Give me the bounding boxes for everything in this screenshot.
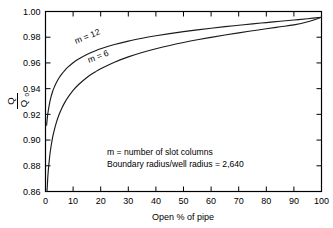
annotation-line-2: Boundary radius/well radius = 2,640 <box>107 159 244 169</box>
annotation-line-1: m = number of slot columns <box>107 147 213 157</box>
x-tick-label: 30 <box>123 196 133 206</box>
y-axis-title-denominator-subscript: o <box>23 93 30 97</box>
y-tick-label: 0.94 <box>23 84 41 94</box>
y-tick-label: 0.98 <box>23 32 41 42</box>
x-tick-label: 70 <box>234 196 244 206</box>
chart-figure: 0.860.880.900.920.940.960.981.00 0102030… <box>0 0 333 228</box>
x-tick-label: 20 <box>96 196 106 206</box>
x-tick-label: 50 <box>178 196 188 206</box>
x-tick-label: 90 <box>289 196 299 206</box>
x-axis-title: Open % of pipe <box>152 212 214 222</box>
x-tick-label: 10 <box>68 196 78 206</box>
y-tick-label: 0.86 <box>23 187 41 197</box>
y-tick-label: 0.88 <box>23 161 41 171</box>
y-tick-label: 1.00 <box>23 7 41 17</box>
y-axis-title-numerator: Q <box>5 97 16 104</box>
chart-svg: 0.860.880.900.920.940.960.981.00 0102030… <box>0 0 333 228</box>
y-tick-label: 0.90 <box>23 135 41 145</box>
x-tick-label: 80 <box>261 196 271 206</box>
x-tick-label: 100 <box>314 196 329 206</box>
x-tick-label: 0 <box>43 196 48 206</box>
y-tick-label: 0.92 <box>23 110 41 120</box>
x-tick-label: 40 <box>151 196 161 206</box>
x-tick-label: 60 <box>206 196 216 206</box>
y-tick-label: 0.96 <box>23 58 41 68</box>
y-axis-title-denominator: Q <box>18 100 29 107</box>
